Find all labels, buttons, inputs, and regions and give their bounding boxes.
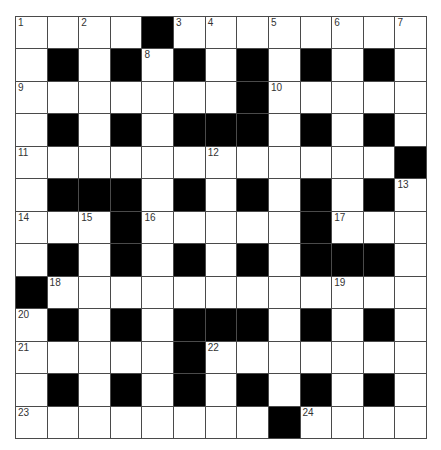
answer-cell[interactable] [269, 179, 300, 210]
answer-cell[interactable] [79, 407, 110, 438]
answer-cell[interactable] [237, 277, 268, 308]
answer-cell[interactable] [142, 374, 173, 405]
answer-cell[interactable] [111, 342, 142, 373]
answer-cell[interactable] [174, 212, 205, 243]
answer-cell[interactable] [16, 49, 47, 80]
answer-cell[interactable] [332, 49, 363, 80]
answer-cell[interactable] [48, 407, 79, 438]
answer-cell[interactable] [395, 82, 426, 113]
answer-cell[interactable] [142, 309, 173, 340]
answer-cell[interactable] [269, 342, 300, 373]
answer-cell[interactable]: 13 [395, 179, 426, 210]
answer-cell[interactable] [142, 179, 173, 210]
answer-cell[interactable] [79, 114, 110, 145]
answer-cell[interactable] [142, 407, 173, 438]
answer-cell[interactable] [206, 179, 237, 210]
answer-cell[interactable]: 22 [206, 342, 237, 373]
answer-cell[interactable] [237, 212, 268, 243]
answer-cell[interactable] [269, 147, 300, 178]
answer-cell[interactable] [395, 407, 426, 438]
answer-cell[interactable] [332, 147, 363, 178]
answer-cell[interactable] [332, 82, 363, 113]
answer-cell[interactable] [142, 277, 173, 308]
answer-cell[interactable] [16, 179, 47, 210]
answer-cell[interactable]: 24 [301, 407, 332, 438]
answer-cell[interactable] [395, 309, 426, 340]
answer-cell[interactable] [174, 147, 205, 178]
answer-cell[interactable] [395, 374, 426, 405]
answer-cell[interactable]: 3 [174, 17, 205, 48]
answer-cell[interactable] [16, 114, 47, 145]
answer-cell[interactable]: 8 [142, 49, 173, 80]
answer-cell[interactable] [48, 82, 79, 113]
answer-cell[interactable] [111, 407, 142, 438]
answer-cell[interactable] [142, 342, 173, 373]
answer-cell[interactable] [395, 114, 426, 145]
answer-cell[interactable] [111, 82, 142, 113]
answer-cell[interactable] [237, 17, 268, 48]
answer-cell[interactable] [48, 212, 79, 243]
answer-cell[interactable]: 21 [16, 342, 47, 373]
answer-cell[interactable] [142, 244, 173, 275]
answer-cell[interactable] [332, 179, 363, 210]
answer-cell[interactable] [79, 309, 110, 340]
answer-cell[interactable] [206, 277, 237, 308]
answer-cell[interactable] [332, 342, 363, 373]
answer-cell[interactable]: 23 [16, 407, 47, 438]
answer-cell[interactable] [364, 342, 395, 373]
answer-cell[interactable] [174, 277, 205, 308]
answer-cell[interactable]: 20 [16, 309, 47, 340]
answer-cell[interactable]: 5 [269, 17, 300, 48]
answer-cell[interactable] [301, 342, 332, 373]
answer-cell[interactable] [79, 342, 110, 373]
answer-cell[interactable]: 2 [79, 17, 110, 48]
answer-cell[interactable] [142, 114, 173, 145]
answer-cell[interactable] [364, 212, 395, 243]
answer-cell[interactable] [332, 114, 363, 145]
answer-cell[interactable] [301, 82, 332, 113]
answer-cell[interactable] [206, 212, 237, 243]
answer-cell[interactable] [48, 17, 79, 48]
answer-cell[interactable] [269, 374, 300, 405]
answer-cell[interactable] [111, 277, 142, 308]
answer-cell[interactable] [364, 82, 395, 113]
answer-cell[interactable] [364, 277, 395, 308]
answer-cell[interactable] [48, 147, 79, 178]
answer-cell[interactable]: 16 [142, 212, 173, 243]
answer-cell[interactable] [395, 212, 426, 243]
answer-cell[interactable] [16, 244, 47, 275]
answer-cell[interactable] [395, 277, 426, 308]
answer-cell[interactable] [301, 147, 332, 178]
answer-cell[interactable] [332, 309, 363, 340]
answer-cell[interactable] [364, 17, 395, 48]
answer-cell[interactable] [269, 212, 300, 243]
answer-cell[interactable] [79, 49, 110, 80]
answer-cell[interactable]: 14 [16, 212, 47, 243]
answer-cell[interactable] [269, 114, 300, 145]
answer-cell[interactable] [395, 49, 426, 80]
answer-cell[interactable] [79, 374, 110, 405]
answer-cell[interactable]: 15 [79, 212, 110, 243]
answer-cell[interactable] [174, 82, 205, 113]
answer-cell[interactable] [269, 309, 300, 340]
answer-cell[interactable] [237, 147, 268, 178]
answer-cell[interactable] [79, 277, 110, 308]
answer-cell[interactable] [142, 147, 173, 178]
answer-cell[interactable] [48, 342, 79, 373]
answer-cell[interactable]: 7 [395, 17, 426, 48]
answer-cell[interactable]: 17 [332, 212, 363, 243]
answer-cell[interactable] [79, 147, 110, 178]
answer-cell[interactable] [364, 147, 395, 178]
answer-cell[interactable] [111, 17, 142, 48]
answer-cell[interactable]: 18 [48, 277, 79, 308]
answer-cell[interactable]: 11 [16, 147, 47, 178]
answer-cell[interactable]: 12 [206, 147, 237, 178]
answer-cell[interactable] [206, 407, 237, 438]
answer-cell[interactable] [16, 374, 47, 405]
answer-cell[interactable]: 6 [332, 17, 363, 48]
answer-cell[interactable] [269, 49, 300, 80]
answer-cell[interactable] [332, 407, 363, 438]
answer-cell[interactable] [269, 244, 300, 275]
answer-cell[interactable] [206, 244, 237, 275]
answer-cell[interactable] [111, 147, 142, 178]
